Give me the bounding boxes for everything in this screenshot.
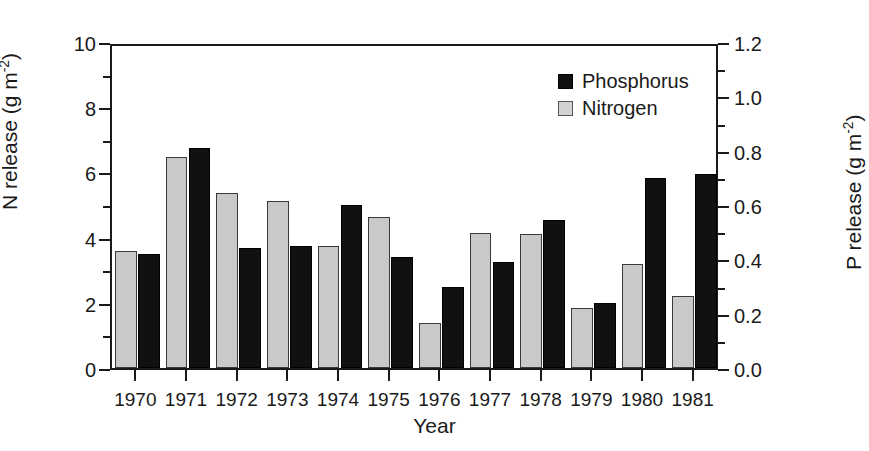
legend-label: Nitrogen xyxy=(582,95,658,122)
x-axis-title: Year xyxy=(0,414,869,438)
x-axis-tick xyxy=(540,370,542,381)
y-axis-right-tick-minor xyxy=(718,179,725,181)
y-axis-left-tick-major xyxy=(99,239,110,241)
x-axis-tick xyxy=(388,370,390,381)
bar-nitrogen xyxy=(622,264,644,368)
y-axis-right-tick-major xyxy=(718,260,729,262)
y-axis-right-tick-major xyxy=(718,43,729,45)
y-axis-left-tick-major xyxy=(99,304,110,306)
bar-group xyxy=(213,46,264,368)
y-axis-right-tick-label: 0.8 xyxy=(734,143,794,163)
x-axis-tick xyxy=(438,370,440,381)
y-axis-right-tick-major xyxy=(718,206,729,208)
y-axis-left-title: N release (g m-2) xyxy=(0,53,22,210)
y-axis-right-tick-label: 0.4 xyxy=(734,251,794,271)
bar-nitrogen xyxy=(318,246,340,368)
bar-phosphorus xyxy=(442,287,464,369)
y-axis-left-tick-label: 2 xyxy=(50,295,96,315)
bar-phosphorus xyxy=(341,205,363,368)
x-axis-tick xyxy=(590,370,592,381)
x-axis-tick xyxy=(489,370,491,381)
bar-phosphorus xyxy=(239,248,261,368)
y-axis-left-tick-major xyxy=(99,108,110,110)
y-axis-right-tick-label: 1.2 xyxy=(734,34,794,54)
y-axis-left-title-superscript: -2 xyxy=(0,60,12,72)
bar-nitrogen xyxy=(571,308,593,368)
y-axis-left-tick-major xyxy=(99,173,110,175)
x-axis-tick xyxy=(286,370,288,381)
bar-phosphorus xyxy=(189,148,211,368)
y-axis-right-title: P release (g m-2) xyxy=(840,115,866,271)
y-axis-left-title-main: N release (g m xyxy=(0,72,21,210)
legend: PhosphorusNitrogen xyxy=(558,68,689,122)
bar-group xyxy=(264,46,315,368)
x-axis-tick xyxy=(134,370,136,381)
y-axis-right-tick-major xyxy=(718,369,729,371)
bar-phosphorus xyxy=(543,220,565,368)
y-axis-right-tick-major xyxy=(718,315,729,317)
y-axis-right-tick-label: 0.6 xyxy=(734,197,794,217)
y-axis-right-title-superscript: -2 xyxy=(840,122,856,134)
bar-nitrogen xyxy=(368,217,390,368)
bar-nitrogen xyxy=(470,233,492,368)
y-axis-right-title-main: P release (g m xyxy=(842,134,865,270)
y-axis-left-tick-label: 8 xyxy=(50,99,96,119)
legend-label: Phosphorus xyxy=(582,68,689,95)
y-axis-right-tick-minor xyxy=(718,125,725,127)
figure: N release (g m-2) P release (g m-2) Year… xyxy=(0,0,869,451)
bar-phosphorus xyxy=(493,262,515,368)
bar-phosphorus xyxy=(645,178,667,368)
bar-nitrogen xyxy=(216,193,238,368)
y-axis-left-tick-minor xyxy=(103,336,110,338)
x-axis-tick xyxy=(337,370,339,381)
bar-phosphorus xyxy=(594,303,616,368)
y-axis-left-tick-minor xyxy=(103,76,110,78)
y-axis-left-tick-label: 0 xyxy=(50,360,96,380)
bar-group xyxy=(467,46,518,368)
bar-group xyxy=(163,46,214,368)
x-axis-tick xyxy=(236,370,238,381)
legend-item: Nitrogen xyxy=(558,95,689,122)
bar-group xyxy=(365,46,416,368)
y-axis-right-tick-minor xyxy=(718,70,725,72)
y-axis-right-tick-major xyxy=(718,97,729,99)
legend-swatch-phosphorus-icon xyxy=(558,74,573,89)
y-axis-right-tick-minor xyxy=(718,288,725,290)
y-axis-right-tick-label: 0.0 xyxy=(734,360,794,380)
legend-item: Phosphorus xyxy=(558,68,689,95)
y-axis-right-title-close: ) xyxy=(842,115,865,122)
y-axis-left-tick-major xyxy=(99,43,110,45)
y-axis-left-tick-label: 4 xyxy=(50,230,96,250)
y-axis-left-tick-minor xyxy=(103,271,110,273)
y-axis-right-tick-label: 1.0 xyxy=(734,88,794,108)
y-axis-left-tick-major xyxy=(99,369,110,371)
legend-swatch-nitrogen-icon xyxy=(558,101,573,116)
bar-phosphorus xyxy=(290,246,312,368)
y-axis-right-tick-minor xyxy=(718,233,725,235)
bar-nitrogen xyxy=(419,323,441,368)
bar-nitrogen xyxy=(166,157,188,368)
bar-group xyxy=(416,46,467,368)
y-axis-right-tick-label: 0.2 xyxy=(734,306,794,326)
bar-phosphorus xyxy=(391,257,413,368)
bar-phosphorus xyxy=(695,174,717,368)
y-axis-left-title-close: ) xyxy=(0,53,21,60)
y-axis-right-tick-major xyxy=(718,152,729,154)
x-axis-tick xyxy=(641,370,643,381)
x-axis-tick xyxy=(692,370,694,381)
y-axis-right-tick-minor xyxy=(718,342,725,344)
bar-nitrogen xyxy=(672,296,694,368)
bar-nitrogen xyxy=(115,251,137,368)
bar-group xyxy=(315,46,366,368)
x-axis-tick xyxy=(185,370,187,381)
y-axis-left-tick-label: 6 xyxy=(50,164,96,184)
bar-nitrogen xyxy=(267,201,289,368)
x-axis-tick-label: 1981 xyxy=(658,390,728,409)
bar-group xyxy=(112,46,163,368)
bar-nitrogen xyxy=(520,234,542,368)
y-axis-left-tick-label: 10 xyxy=(50,34,96,54)
y-axis-left-tick-minor xyxy=(103,141,110,143)
y-axis-left-tick-minor xyxy=(103,206,110,208)
bar-phosphorus xyxy=(138,254,160,368)
